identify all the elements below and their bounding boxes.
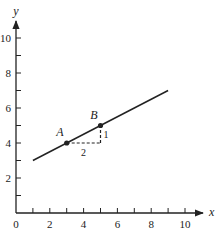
x-tick-label-6: 6 — [115, 218, 121, 230]
y-axis-label: y — [12, 4, 19, 18]
origin-label: 0 — [13, 218, 19, 230]
point-b-marker — [98, 123, 103, 128]
y-tick-label-6: 6 — [6, 102, 12, 114]
x-axis-label: x — [208, 205, 215, 219]
y-tick-label-10: 10 — [0, 32, 12, 44]
rise-label: 1 — [104, 129, 109, 140]
slope-chart: 0 2 4 6 8 10 2 4 6 8 10 x y A B 2 1 — [0, 0, 216, 231]
run-label: 2 — [81, 147, 86, 158]
x-tick-label-8: 8 — [148, 218, 154, 230]
y-tick-label-8: 8 — [6, 67, 12, 79]
x-tick-label-4: 4 — [81, 218, 87, 230]
point-a-label: A — [55, 125, 64, 139]
point-b-label: B — [90, 108, 98, 122]
x-ticks — [33, 208, 185, 213]
x-tick-label-10: 10 — [180, 218, 192, 230]
y-tick-label-2: 2 — [6, 172, 12, 184]
x-tick-label-2: 2 — [47, 218, 53, 230]
y-tick-label-4: 4 — [6, 137, 12, 149]
point-a-marker — [64, 140, 69, 145]
y-ticks — [16, 38, 21, 196]
